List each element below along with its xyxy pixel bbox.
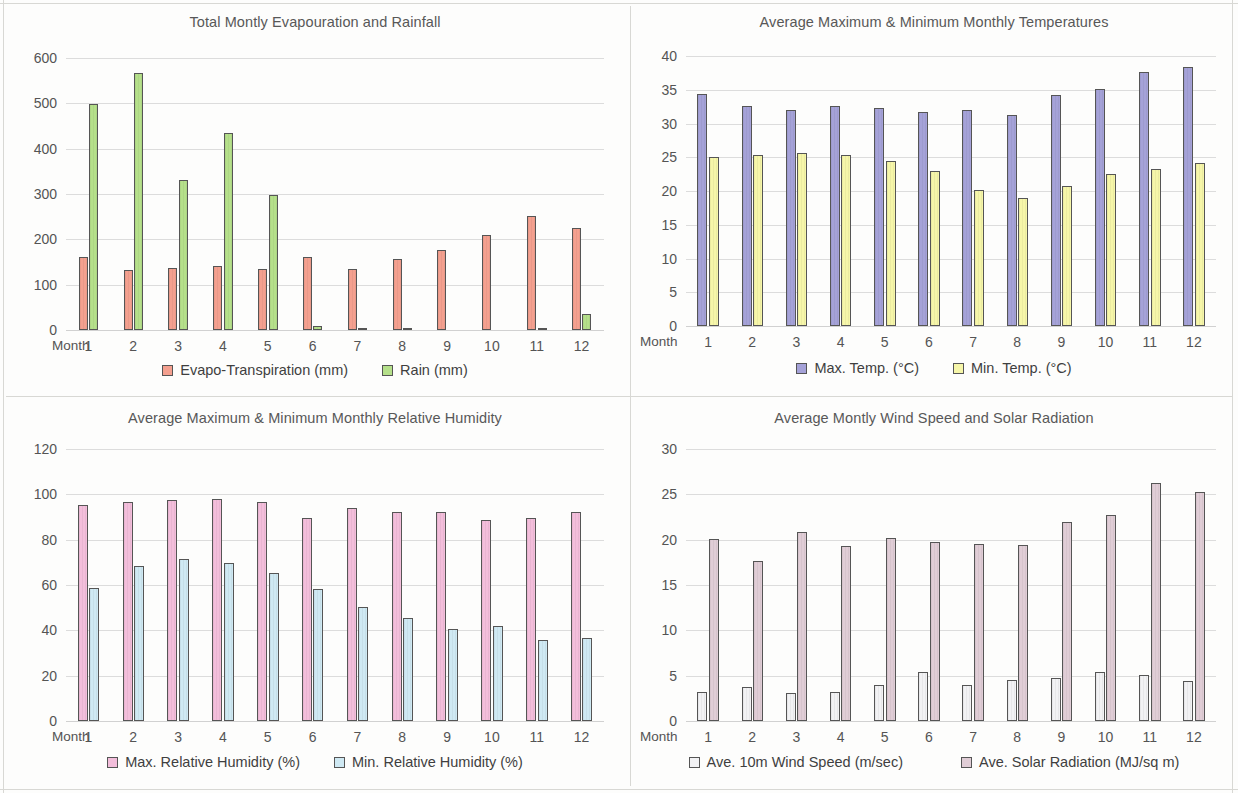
legend-item[interactable]: Ave. Solar Radiation (MJ/sq m): [961, 754, 1179, 770]
bar[interactable]: [212, 499, 222, 721]
bar[interactable]: [526, 518, 536, 721]
bar[interactable]: [886, 161, 896, 326]
bar[interactable]: [358, 328, 367, 330]
bar[interactable]: [167, 500, 177, 721]
bar[interactable]: [830, 692, 840, 721]
bar[interactable]: [168, 268, 177, 330]
bar[interactable]: [786, 693, 796, 721]
bar[interactable]: [974, 190, 984, 326]
bar[interactable]: [709, 157, 719, 326]
bar[interactable]: [1051, 95, 1061, 326]
bar[interactable]: [134, 566, 144, 721]
bar[interactable]: [258, 269, 267, 330]
bar[interactable]: [1007, 115, 1017, 326]
bar[interactable]: [224, 133, 233, 330]
bar[interactable]: [1151, 169, 1161, 326]
bar[interactable]: [257, 502, 267, 721]
bar[interactable]: [797, 532, 807, 721]
bar[interactable]: [1183, 681, 1193, 721]
legend-item[interactable]: Rain (mm): [382, 362, 468, 378]
bar[interactable]: [269, 573, 279, 721]
bar[interactable]: [393, 259, 402, 330]
bar[interactable]: [930, 542, 940, 721]
legend-item[interactable]: Min. Relative Humidity (%): [334, 754, 523, 770]
bar[interactable]: [79, 257, 88, 330]
bar[interactable]: [697, 94, 707, 326]
bar[interactable]: [1151, 483, 1161, 721]
legend-item[interactable]: Evapo-Transpiration (mm): [162, 362, 348, 378]
bar[interactable]: [1139, 72, 1149, 326]
bar[interactable]: [874, 108, 884, 326]
bar[interactable]: [1018, 198, 1028, 326]
bar[interactable]: [213, 266, 222, 330]
bar[interactable]: [1007, 680, 1017, 721]
bar[interactable]: [974, 544, 984, 721]
bar[interactable]: [448, 629, 458, 721]
bar[interactable]: [89, 104, 98, 330]
bar[interactable]: [582, 314, 591, 330]
bar[interactable]: [1062, 186, 1072, 326]
bar[interactable]: [437, 250, 446, 330]
bar[interactable]: [493, 626, 503, 721]
bar[interactable]: [481, 520, 491, 721]
bar[interactable]: [302, 518, 312, 721]
bar[interactable]: [742, 687, 752, 721]
bar[interactable]: [841, 155, 851, 326]
bar[interactable]: [347, 508, 357, 721]
bar[interactable]: [403, 618, 413, 721]
bar[interactable]: [753, 155, 763, 326]
bar[interactable]: [224, 563, 234, 721]
bar[interactable]: [1095, 672, 1105, 721]
legend-item[interactable]: Ave. 10m Wind Speed (m/sec): [689, 754, 903, 770]
bar[interactable]: [1195, 163, 1205, 326]
bar[interactable]: [482, 235, 491, 330]
bar[interactable]: [134, 73, 143, 330]
bar[interactable]: [962, 110, 972, 326]
bar[interactable]: [786, 110, 796, 326]
legend-item[interactable]: Max. Relative Humidity (%): [107, 754, 300, 770]
bar[interactable]: [1195, 492, 1205, 721]
bar[interactable]: [886, 538, 896, 721]
bar[interactable]: [1106, 515, 1116, 721]
bar[interactable]: [538, 640, 548, 721]
bar[interactable]: [918, 672, 928, 721]
bar[interactable]: [313, 326, 322, 330]
bar[interactable]: [742, 106, 752, 326]
bar[interactable]: [697, 692, 707, 721]
bar[interactable]: [313, 589, 323, 721]
bar[interactable]: [753, 561, 763, 721]
legend-item[interactable]: Min. Temp. (°C): [953, 360, 1072, 376]
bar[interactable]: [527, 216, 536, 330]
bar[interactable]: [841, 546, 851, 721]
bar[interactable]: [179, 180, 188, 330]
bar[interactable]: [436, 512, 446, 721]
legend-item[interactable]: Max. Temp. (°C): [796, 360, 919, 376]
bar[interactable]: [571, 512, 581, 721]
bar[interactable]: [1106, 174, 1116, 326]
bar[interactable]: [78, 505, 88, 721]
bar[interactable]: [1018, 545, 1028, 721]
bar[interactable]: [874, 685, 884, 721]
bar[interactable]: [179, 559, 189, 721]
bar[interactable]: [830, 106, 840, 326]
bar[interactable]: [930, 171, 940, 326]
bar[interactable]: [582, 638, 592, 721]
bar[interactable]: [358, 607, 368, 721]
bar[interactable]: [1095, 89, 1105, 326]
bar[interactable]: [1051, 678, 1061, 721]
bar[interactable]: [303, 257, 312, 330]
bar[interactable]: [124, 270, 133, 330]
bar[interactable]: [709, 539, 719, 721]
bar[interactable]: [269, 195, 278, 330]
bar[interactable]: [392, 512, 402, 721]
bar[interactable]: [1183, 67, 1193, 326]
bar[interactable]: [403, 328, 412, 330]
bar[interactable]: [538, 328, 547, 330]
bar[interactable]: [123, 502, 133, 721]
bar[interactable]: [1139, 675, 1149, 721]
bar[interactable]: [572, 228, 581, 330]
bar[interactable]: [1062, 522, 1072, 721]
bar[interactable]: [89, 588, 99, 721]
bar[interactable]: [962, 685, 972, 721]
bar[interactable]: [348, 269, 357, 330]
